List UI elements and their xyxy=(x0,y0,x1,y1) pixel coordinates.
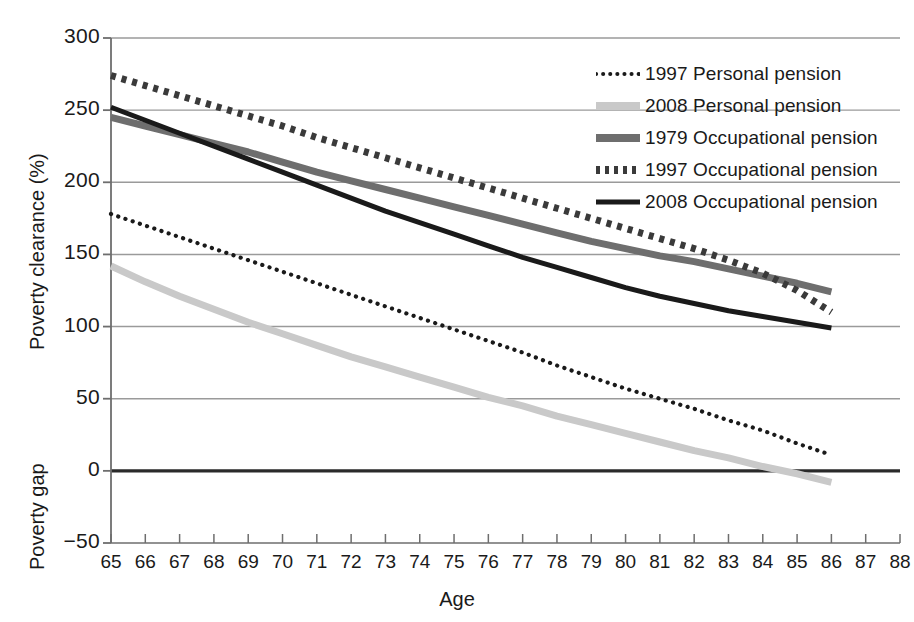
legend-item[interactable]: 2008 Personal pension xyxy=(596,90,906,122)
y-axis-title-upper: Poverty clearance (%) xyxy=(26,153,49,350)
legend-line-swatch-icon xyxy=(596,193,640,211)
legend-item-label: 2008 Personal pension xyxy=(645,95,841,117)
series-line xyxy=(111,214,831,455)
legend-line-swatch-icon xyxy=(596,129,640,147)
x-axis-tick-label: 88 xyxy=(880,551,914,573)
legend-item[interactable]: 1979 Occupational pension xyxy=(596,122,906,154)
chart-legend: 1997 Personal pension2008 Personal pensi… xyxy=(596,58,906,218)
y-axis-tick-label: 300 xyxy=(28,24,100,48)
legend-line-swatch-icon xyxy=(596,97,640,115)
legend-item[interactable]: 2008 Occupational pension xyxy=(596,186,906,218)
legend-item[interactable]: 1997 Personal pension xyxy=(596,58,906,90)
legend-item-label: 2008 Occupational pension xyxy=(645,191,878,213)
legend-item-label: 1997 Occupational pension xyxy=(645,159,878,181)
series-line xyxy=(111,266,831,482)
legend-item[interactable]: 1997 Occupational pension xyxy=(596,154,906,186)
legend-item-label: 1997 Personal pension xyxy=(645,63,841,85)
legend-line-swatch-icon xyxy=(596,161,640,179)
y-axis-title-lower: Poverty gap xyxy=(26,463,49,570)
poverty-clearance-chart: −50050100150200250300 656667686970717273… xyxy=(0,0,914,622)
legend-item-label: 1979 Occupational pension xyxy=(645,127,878,149)
y-axis-tick-label: 50 xyxy=(28,385,100,409)
x-axis-title: Age xyxy=(0,588,914,611)
y-axis-tick-label: 250 xyxy=(28,96,100,120)
legend-line-swatch-icon xyxy=(596,65,640,83)
